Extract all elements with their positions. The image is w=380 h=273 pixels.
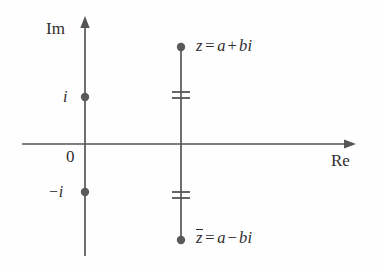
z-conjugate-imaginary-part: bi bbox=[239, 228, 252, 247]
z-symbol: z bbox=[196, 36, 203, 55]
point-z-conjugate-dot bbox=[177, 236, 185, 244]
point-z-dot bbox=[177, 43, 185, 51]
point-z-conjugate-label: z=a−bi bbox=[196, 229, 252, 247]
complex-plane-figure: Im Re 0 i −i z=a+bi z=a−bi bbox=[0, 0, 380, 273]
imaginary-axis bbox=[80, 16, 89, 256]
real-axis-arrowhead bbox=[344, 140, 356, 149]
real-axis-label: Re bbox=[331, 152, 350, 169]
point-i-dot bbox=[81, 93, 89, 101]
z-conjugate-equals-sign: = bbox=[203, 228, 218, 247]
imaginary-axis-label: Im bbox=[46, 20, 65, 37]
z-conjugate-operator: − bbox=[226, 228, 240, 247]
z-operator: + bbox=[226, 36, 240, 55]
figure-canvas bbox=[0, 0, 380, 273]
z-equals-sign: = bbox=[203, 36, 218, 55]
z-conjugate-real-part: a bbox=[217, 228, 225, 247]
z-imaginary-part: bi bbox=[239, 36, 252, 55]
point-minus-i-label: −i bbox=[48, 184, 63, 200]
z-real-part: a bbox=[217, 36, 225, 55]
z-conjugate-symbol-with-overbar: z bbox=[196, 229, 203, 247]
point-minus-i-dot bbox=[81, 188, 89, 196]
imaginary-axis-arrowhead bbox=[80, 16, 89, 28]
point-z-label: z=a+bi bbox=[196, 38, 252, 55]
origin-label: 0 bbox=[66, 148, 75, 165]
point-i-label: i bbox=[63, 89, 67, 105]
